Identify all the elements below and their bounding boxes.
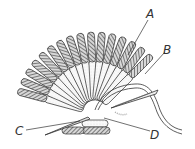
bottom-stitches [62, 120, 110, 134]
label-d: D [150, 128, 159, 142]
label-b: B [163, 43, 171, 57]
label-a: A [145, 7, 154, 21]
label-c: C [15, 124, 24, 138]
fan-stitch-diagram: A B C D [0, 0, 195, 149]
